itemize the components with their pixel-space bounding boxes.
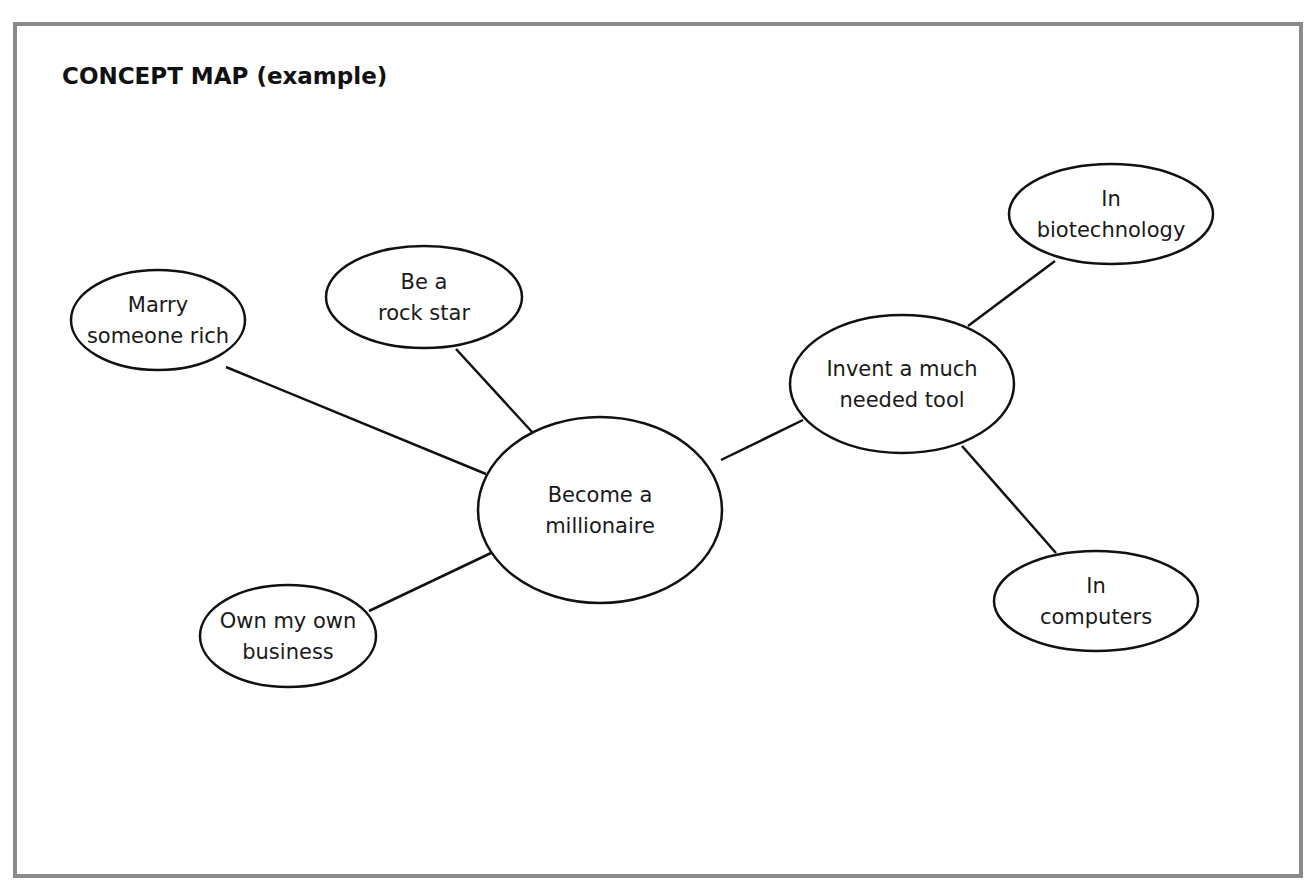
node-computers: Incomputers	[994, 551, 1198, 651]
node-label-line: millionaire	[545, 514, 655, 538]
node-ellipse	[994, 551, 1198, 651]
node-label-line: business	[242, 640, 334, 664]
node-ellipse	[200, 585, 376, 687]
node-ellipse	[71, 270, 245, 370]
node-label-line: Be a	[401, 270, 448, 294]
node-label-line: biotechnology	[1037, 218, 1186, 242]
node-label-line: In	[1101, 187, 1121, 211]
node-label-line: In	[1086, 574, 1106, 598]
node-label-line: Become a	[548, 483, 653, 507]
node-ellipse	[1009, 164, 1213, 264]
edge-invent-biotech	[968, 261, 1055, 326]
edge-marry-center	[226, 367, 486, 474]
edge-center-invent	[721, 420, 803, 460]
node-label-line: computers	[1040, 605, 1152, 629]
concept-map-nodes: Become amillionaireMarrysomeone richBe a…	[71, 164, 1213, 687]
node-ellipse	[326, 246, 522, 348]
node-label-line: someone rich	[87, 324, 229, 348]
node-biotech: Inbiotechnology	[1009, 164, 1213, 264]
node-ellipse	[478, 417, 722, 603]
node-label-line: Marry	[128, 293, 188, 317]
node-invent: Invent a muchneeded tool	[790, 315, 1014, 453]
node-business: Own my ownbusiness	[200, 585, 376, 687]
node-center: Become amillionaire	[478, 417, 722, 603]
edge-business-center	[369, 553, 491, 611]
node-label-line: Invent a much	[826, 357, 977, 381]
node-label-line: needed tool	[839, 388, 964, 412]
node-marry: Marrysomeone rich	[71, 270, 245, 370]
node-ellipse	[790, 315, 1014, 453]
node-label-line: rock star	[378, 301, 470, 325]
node-rock: Be arock star	[326, 246, 522, 348]
edge-rock-center	[456, 349, 533, 433]
edge-invent-computers	[962, 446, 1056, 553]
concept-map: Become amillionaireMarrysomeone richBe a…	[0, 0, 1314, 889]
node-label-line: Own my own	[220, 609, 357, 633]
